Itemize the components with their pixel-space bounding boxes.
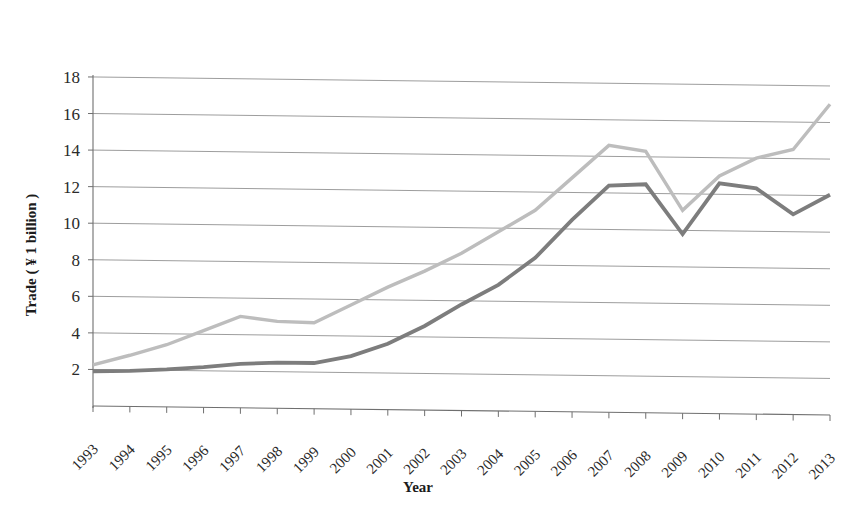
chart-container: 24681012141618 1993199419951996199719981… xyxy=(0,0,849,521)
y-tick-label: 18 xyxy=(63,68,80,87)
x-axis-title: Year xyxy=(403,479,433,495)
x-axis-title-group: Year xyxy=(403,479,433,495)
y-tick-label: 6 xyxy=(72,287,81,306)
y-axis-title-group: Trade ( ¥ 1 billion ) xyxy=(23,194,40,317)
y-tick-label: 8 xyxy=(72,251,81,270)
y-tick-label: 4 xyxy=(72,324,81,343)
y-axis-title: Trade ( ¥ 1 billion ) xyxy=(23,194,40,317)
y-tick-label: 16 xyxy=(63,105,80,124)
line-chart: 24681012141618 1993199419951996199719981… xyxy=(0,0,849,521)
y-tick-label: 12 xyxy=(63,178,80,197)
y-tick-label: 2 xyxy=(72,360,81,379)
y-tick-label: 10 xyxy=(63,214,80,233)
y-tick-label: 14 xyxy=(63,141,81,160)
